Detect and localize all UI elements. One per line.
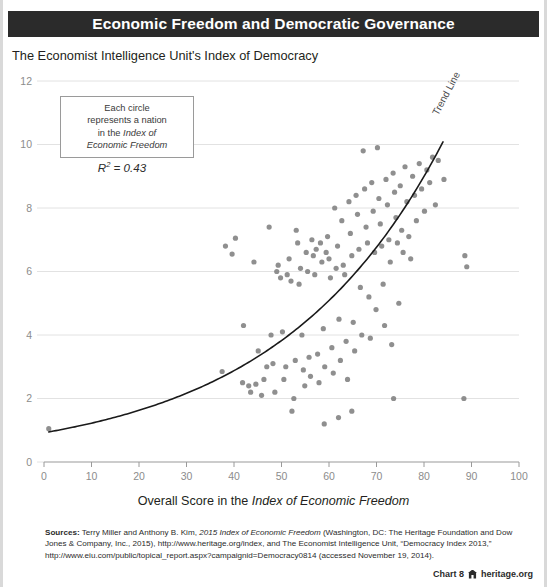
x-axis-title: Overall Score in the Index of Economic F… bbox=[0, 494, 547, 508]
svg-text:2: 2 bbox=[26, 392, 32, 404]
chart-footer: Chart 8 heritage.org bbox=[433, 569, 533, 579]
x-axis-title-italic: Index of Economic Freedom bbox=[252, 494, 410, 508]
trend-line bbox=[49, 142, 443, 432]
svg-text:50: 50 bbox=[276, 470, 288, 482]
heritage-site-label: heritage.org bbox=[481, 569, 533, 579]
sources-note: Sources: Terry Miller and Anthony B. Kim… bbox=[45, 527, 515, 561]
chart-number: Chart 8 bbox=[433, 569, 464, 579]
svg-text:10: 10 bbox=[20, 138, 32, 150]
data-points bbox=[46, 145, 469, 431]
sources-text-1: Terry Miller and Anthony B. Kim, bbox=[80, 528, 200, 537]
r-squared-value: = 0.43 bbox=[110, 161, 146, 174]
trend-line-label: Trend Line bbox=[430, 70, 462, 117]
callout-box: Each circle represents a nation in the I… bbox=[60, 96, 194, 158]
svg-text:30: 30 bbox=[181, 470, 193, 482]
heritage-castle-icon bbox=[468, 570, 477, 579]
svg-text:20: 20 bbox=[133, 470, 145, 482]
svg-text:10: 10 bbox=[86, 470, 98, 482]
callout-line-3-italic: Index of bbox=[123, 128, 156, 138]
svg-text:6: 6 bbox=[26, 265, 32, 277]
x-axis-ticks: 0102030405060708090100 bbox=[41, 470, 528, 482]
svg-text:0: 0 bbox=[26, 456, 32, 468]
callout-line-3: in the bbox=[98, 128, 123, 138]
svg-text:40: 40 bbox=[228, 470, 240, 482]
x-axis-title-prefix: Overall Score in the bbox=[138, 494, 252, 508]
svg-text:4: 4 bbox=[26, 329, 32, 341]
r-squared-symbol: R bbox=[98, 161, 106, 174]
sources-italic-1: 2015 Index of Economic Freedom bbox=[199, 528, 320, 537]
callout-line-1: Each circle bbox=[104, 103, 149, 113]
svg-text:80: 80 bbox=[418, 470, 430, 482]
svg-text:0: 0 bbox=[41, 470, 47, 482]
sources-label: Sources: bbox=[45, 528, 80, 537]
svg-text:Trend Line: Trend Line bbox=[430, 70, 462, 117]
svg-text:100: 100 bbox=[510, 470, 528, 482]
callout-line-2: represents a nation bbox=[87, 115, 167, 125]
y-axis-ticks: 024681012 bbox=[20, 75, 32, 468]
callout-line-4-italic: Economic Freedom bbox=[87, 140, 168, 150]
svg-text:60: 60 bbox=[323, 470, 335, 482]
r-squared-label: R2 = 0.43 bbox=[60, 160, 184, 174]
svg-text:8: 8 bbox=[26, 202, 32, 214]
svg-text:70: 70 bbox=[371, 470, 383, 482]
x-axis bbox=[44, 462, 519, 467]
svg-text:90: 90 bbox=[466, 470, 478, 482]
svg-text:12: 12 bbox=[20, 75, 32, 87]
